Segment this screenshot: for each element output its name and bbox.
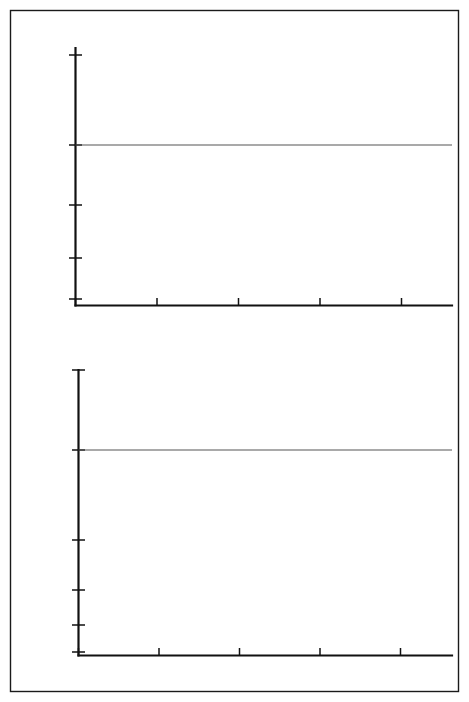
chart-net-balance-of-payments: [72, 370, 452, 656]
chart-current-capital-account: [69, 48, 452, 306]
balance-of-payments-figure: [0, 0, 469, 702]
